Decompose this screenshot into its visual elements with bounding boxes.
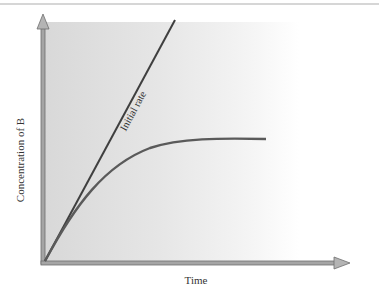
chart-canvas (0, 0, 379, 292)
y-axis-label: Concentration of B (14, 118, 26, 202)
x-axis-arrow-icon (334, 257, 350, 269)
y-axis-arrow-icon (37, 14, 49, 29)
x-axis-label: Time (185, 274, 208, 286)
